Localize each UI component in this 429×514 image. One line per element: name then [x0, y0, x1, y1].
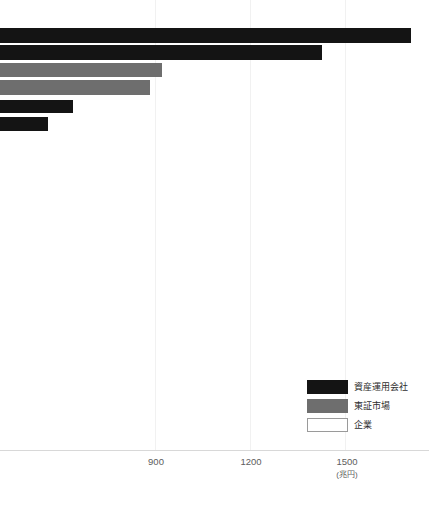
legend-swatch-icon	[307, 418, 348, 432]
x-tick-1200: 1200	[240, 456, 261, 467]
legend-item-corporate[interactable]: 企業	[307, 415, 419, 434]
legend-item-asset-company[interactable]: 資産運用会社	[307, 377, 419, 396]
x-tick-900: 900	[148, 456, 164, 467]
x-axis-line	[0, 450, 429, 451]
legend-item-tse-market[interactable]: 東証市場	[307, 396, 419, 415]
bar-row[interactable]	[0, 80, 150, 95]
legend: 資産運用会社 東証市場 企業	[307, 377, 419, 434]
horizontal-bar-chart: 900 1200 1500 (兆円) 資産運用会社 東証市場 企業	[0, 0, 429, 514]
bar-row[interactable]	[0, 117, 48, 131]
legend-swatch-icon	[307, 380, 348, 394]
bar-row[interactable]	[0, 45, 322, 60]
legend-item-label: 企業	[354, 418, 372, 431]
legend-item-label: 東証市場	[354, 399, 390, 412]
bar-group	[0, 0, 429, 140]
bar-row[interactable]	[0, 28, 411, 43]
x-axis-unit: (兆円)	[336, 468, 357, 479]
bar-row[interactable]	[0, 100, 73, 113]
legend-swatch-icon	[307, 399, 348, 413]
bar-row[interactable]	[0, 63, 162, 77]
legend-item-label: 資産運用会社	[354, 380, 408, 393]
x-tick-1500: 1500	[336, 456, 357, 467]
